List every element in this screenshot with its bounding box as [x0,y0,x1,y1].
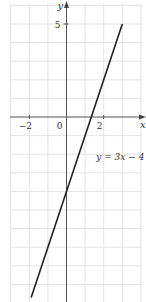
y-axis: y [57,0,70,302]
x-tick-label: −2 [19,121,32,131]
line-chart: x y −2025 y = 3x − 4 [0,0,146,302]
y-tick-label: 5 [55,20,61,30]
tick-labels: −2025 [19,20,104,132]
x-axis-label: x [140,119,146,130]
equation-label: y = 3x − 4 [95,152,144,162]
x-tick-label: 0 [57,121,63,131]
y-axis-label: y [57,0,64,11]
y-axis-arrow-icon [64,1,69,8]
x-tick-label: 2 [97,121,103,131]
